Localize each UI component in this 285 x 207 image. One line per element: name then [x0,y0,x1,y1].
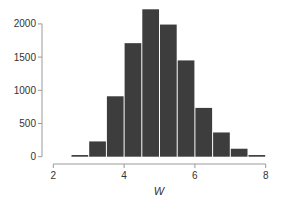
histogram-bar [178,60,195,156]
histogram-bars [72,9,266,156]
x-tick-label: 6 [192,170,198,181]
histogram-bar [72,155,89,157]
y-tick-label: 2000 [14,18,37,29]
histogram-bar [125,43,142,157]
histogram-bar [213,132,230,156]
histogram-bar [142,9,159,156]
histogram-bar [195,108,212,157]
histogram-bar [249,155,266,157]
histogram-bar [160,25,177,157]
y-tick-label: 500 [19,118,36,129]
y-tick-label: 1000 [14,85,37,96]
x-axis-title: W [154,185,166,197]
y-tick-label: 1500 [14,52,37,63]
histogram-bar [89,141,106,156]
x-tick-label: 4 [121,170,127,181]
x-axis: 2468 [51,164,269,181]
histogram-chart: 0500100015002000 2468 W [0,0,285,207]
x-tick-label: 2 [51,170,57,181]
histogram-bar [231,149,248,157]
y-tick-label: 0 [30,151,36,162]
histogram-bar [107,96,124,156]
y-axis: 0500100015002000 [14,18,42,162]
x-tick-label: 8 [263,170,269,181]
